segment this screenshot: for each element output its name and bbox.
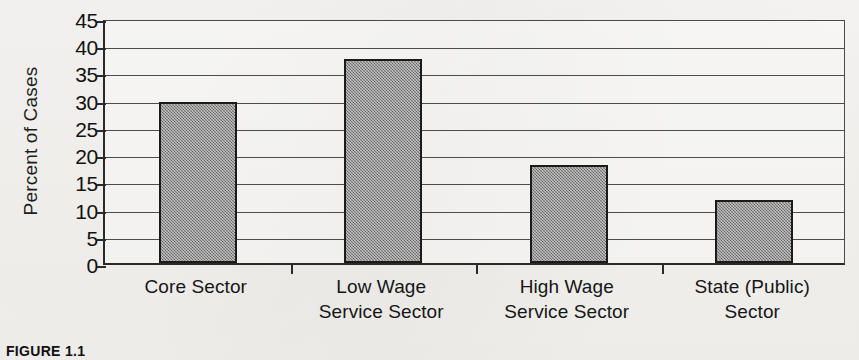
figure-caption: FIGURE 1.1 <box>6 343 85 360</box>
y-axis-title: Percent of Cases <box>20 31 42 251</box>
x-axis-category-label-group: Core SectorLow WageService SectorHigh Wa… <box>103 274 845 336</box>
x-axis-tick-mark <box>291 263 293 274</box>
y-axis-tick-mark <box>97 157 106 159</box>
bar <box>159 102 237 263</box>
y-axis-tick-label: 40 <box>40 37 98 58</box>
y-axis-tick-mark <box>97 212 106 214</box>
y-axis-tick-label: 25 <box>40 118 98 139</box>
y-axis-tick-label: 10 <box>40 200 98 221</box>
x-axis-tick-mark <box>476 263 478 274</box>
y-axis-tick-label-group: 454035302520151050 <box>40 20 98 265</box>
x-axis-category-label-line1: Core Sector <box>145 276 247 297</box>
y-axis-tick-label: 20 <box>40 146 98 167</box>
y-axis-tick-mark <box>97 266 106 268</box>
x-axis-tick-mark <box>662 263 664 274</box>
x-axis-category-label-line1: Low Wage <box>336 276 426 297</box>
y-axis-tick-mark <box>97 103 106 105</box>
x-axis-category-label-line2: Service Sector <box>474 299 660 324</box>
x-axis-category-label-line1: High Wage <box>520 276 614 297</box>
y-axis-tick-label: 5 <box>40 227 98 248</box>
y-axis-tick-mark <box>97 21 106 23</box>
bar <box>344 59 422 263</box>
x-axis-category-label: Low WageService Sector <box>289 274 475 324</box>
y-axis-tick-label: 30 <box>40 91 98 112</box>
y-axis-tick-mark <box>97 239 106 241</box>
bar <box>715 200 793 263</box>
gridline <box>105 48 844 49</box>
gridline <box>105 75 844 76</box>
x-axis-category-label-line2: Sector <box>660 299 846 324</box>
bar-chart-figure: Percent of Cases 454035302520151050 Core… <box>0 0 859 360</box>
plot-area <box>103 20 845 265</box>
y-axis-tick-label: 45 <box>40 10 98 31</box>
y-axis-tick-label: 15 <box>40 173 98 194</box>
y-axis-tick-mark <box>97 184 106 186</box>
x-axis-category-label: High WageService Sector <box>474 274 660 324</box>
x-axis-category-label: State (Public)Sector <box>660 274 846 324</box>
bar <box>530 165 608 263</box>
y-axis-tick-mark <box>97 130 106 132</box>
y-axis-tick-mark <box>97 75 106 77</box>
y-axis-tick-label: 35 <box>40 64 98 85</box>
y-axis-tick-mark <box>97 48 106 50</box>
x-axis-category-label: Core Sector <box>103 274 289 299</box>
x-axis-category-label-line2: Service Sector <box>289 299 475 324</box>
x-axis-category-label-line1: State (Public) <box>695 276 810 297</box>
y-axis-tick-label: 0 <box>40 255 98 276</box>
